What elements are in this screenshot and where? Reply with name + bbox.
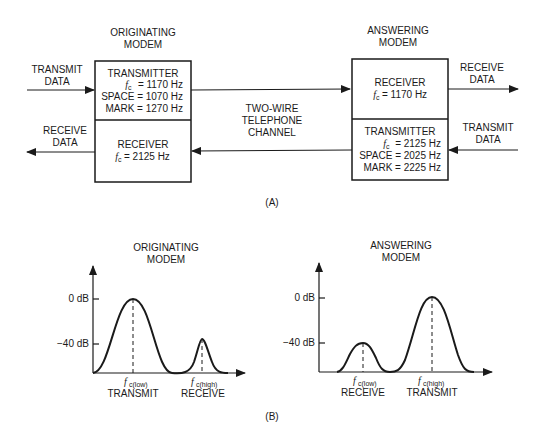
left-peak2-f: f [191,376,195,387]
orig-transmit-data-line2: DATA [44,76,70,87]
channel-forward-arrow-icon [191,89,350,90]
left-y-tick-40db: −40 dB [57,338,89,349]
caption-a: (A) [265,197,278,208]
channel-label-line2: TELEPHONE [242,115,303,126]
left-y-tick-0db: 0 dB [68,293,89,304]
part-b-left-chart: ORIGINATING MODEM 0 dB −40 dB f c(low) T… [57,242,245,399]
orig-receive-data-line2: DATA [52,137,78,148]
left-peak1-label: TRANSMIT [107,388,158,399]
originating-title-line1: ORIGINATING [110,27,176,38]
right-y-tick-0db: 0 dB [294,292,315,303]
orig-transmitter-label: TRANSMITTER [107,68,178,79]
right-spectrum-curve [337,297,474,372]
right-peak2-f: f [418,375,422,386]
orig-receive-data-line1: RECEIVE [43,125,87,136]
channel-label-line3: CHANNEL [248,127,296,138]
orig-rx-fc-sub: c [118,156,122,163]
ans-transmitter-mark: MARK = 2225 Hz [363,162,441,173]
ans-transmitter-space: SPACE = 2025 Hz [359,150,441,161]
left-spectrum-curve [93,299,228,373]
ans-rx-fc-sub: c [376,94,380,101]
right-chart-title-line2: MODEM [382,252,420,263]
right-chart-title-line1: ANSWERING [370,240,432,251]
right-peak1-label: RECEIVE [341,387,385,398]
ans-receive-data-line2: DATA [469,74,495,85]
caption-b: (B) [265,411,278,422]
orig-fc-sub: c [128,84,132,91]
right-y-tick-40db: −40 dB [283,337,315,348]
orig-receiver-fc: = 2125 Hz [124,151,170,162]
originating-title-line2: MODEM [124,39,162,50]
orig-receiver-label: RECEIVER [117,139,168,150]
right-peak1-f: f [353,375,357,386]
ans-transmitter-label: TRANSMITTER [364,126,435,137]
orig-transmitter-space: SPACE = 1070 Hz [101,91,183,102]
right-peak2-label: TRANSMIT [406,387,457,398]
ans-receiver-fc: = 1170 Hz [382,89,427,100]
ans-receive-data-line1: RECEIVE [460,62,504,73]
part-b-right-chart: ANSWERING MODEM 0 dB −40 dB f c(low) REC… [283,240,492,398]
answering-title-line2: MODEM [379,37,417,48]
part-a: ORIGINATING MODEM TRANSMITTER f c = 1170… [27,25,518,208]
left-peak2-label: RECEIVE [181,388,225,399]
channel-label-line1: TWO-WIRE [246,103,299,114]
answering-title-line1: ANSWERING [367,25,429,36]
channel-reverse-arrow-icon [192,150,352,151]
ans-transmit-data-line2: DATA [475,134,501,145]
ans-transmit-data-line1: TRANSMIT [462,122,513,133]
ans-transmitter-fc: = 2125 Hz [395,138,441,149]
ans-tx-fc-sub: c [386,143,390,150]
left-chart-title-line1: ORIGINATING [133,242,199,253]
orig-transmit-data-line1: TRANSMIT [31,64,82,75]
ans-receiver-label: RECEIVER [374,77,425,88]
orig-transmitter-fc: = 1170 Hz [138,79,183,90]
orig-transmitter-mark: MARK = 1270 Hz [105,103,183,114]
left-chart-title-line2: MODEM [147,254,185,265]
modem-diagram: ORIGINATING MODEM TRANSMITTER f c = 1170… [0,0,542,438]
left-peak1-f: f [124,376,128,387]
